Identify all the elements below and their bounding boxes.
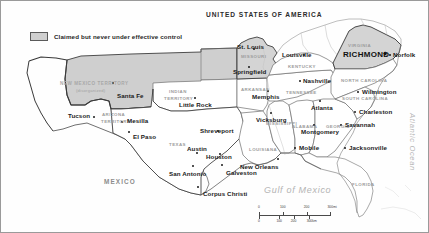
historical-map: Claimed but never under effective contro…: [0, 0, 429, 233]
legend-label: Claimed but never under effective contro…: [54, 33, 182, 40]
scale-bar: 0 100 200 300 mi 0 100 200 300 km: [259, 205, 331, 226]
indian-territory-shape: [153, 79, 237, 111]
scale-km-unit: km: [312, 219, 316, 223]
scale-mi-unit: mi: [333, 205, 336, 209]
scale-mi-tick-0: 0: [258, 205, 260, 209]
scale-km-tick-2: 200: [291, 219, 297, 223]
legend-swatch: [30, 32, 48, 41]
scale-km-tick-1: 100: [276, 219, 282, 223]
legend: Claimed but never under effective contro…: [30, 32, 182, 41]
scale-km-tick-0: 0: [258, 219, 260, 223]
scale-mi-tick-2: 200: [304, 205, 310, 209]
arkansas-shape: [237, 78, 269, 111]
scale-mi-tick-1: 100: [280, 205, 286, 209]
